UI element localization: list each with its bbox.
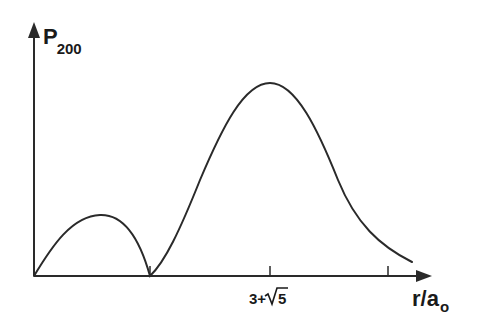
y-axis-label-subscript: 200 (57, 40, 82, 57)
svg-text:3+: 3+ (249, 290, 266, 307)
svg-text:5: 5 (278, 290, 286, 307)
probability-curve (34, 83, 412, 276)
peak-tick-label: 3+ 5 (249, 288, 288, 307)
probability-diagram: P200 r/ao 3+ 5 (0, 0, 478, 333)
y-axis-arrow-icon (28, 22, 40, 38)
y-axis-label: P200 (43, 24, 82, 57)
x-axis-arrow-icon (416, 270, 432, 282)
x-axis-label: r/ao (412, 286, 449, 315)
x-axis-label-subscript: o (440, 298, 449, 315)
